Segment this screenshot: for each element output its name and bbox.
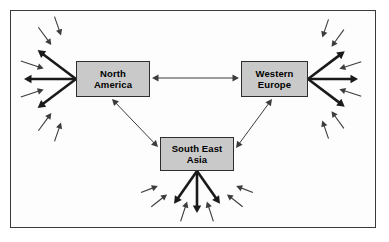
fan-western-europe [308, 19, 361, 138]
fan-south-east-asia-thin-arrow-5 [141, 185, 158, 192]
fan-north-america-thin-arrow-5 [55, 122, 63, 141]
fan-western-europe-thin-arrow-2 [332, 111, 344, 128]
node-south-east-asia[interactable]: South East Asia [160, 137, 234, 171]
fan-western-europe-thin-arrow-0 [339, 88, 361, 96]
connector-na-we[interactable] [152, 75, 239, 82]
fan-north-america-thin-arrow-4 [55, 17, 63, 36]
fan-north-america-thick-arrow-2 [38, 79, 76, 108]
fan-south-east-asia-thin-arrow-2 [227, 194, 243, 206]
fan-western-europe-thick-arrow-2 [308, 51, 345, 79]
fan-north-america-thick-arrow-0 [24, 75, 76, 83]
fan-south-east-asia-thick-arrow-2 [174, 171, 197, 204]
node-north-america-label: North America [92, 68, 134, 91]
fan-north-america-thin-arrow-3 [38, 113, 51, 131]
connector-we-sea[interactable] [236, 99, 272, 148]
fan-western-europe-thin-arrow-5 [321, 19, 328, 37]
fan-western-europe-thick-arrow-1 [308, 79, 345, 107]
diagram-canvas [0, 0, 389, 242]
connector-na-sea[interactable] [112, 99, 158, 147]
fan-south-east-asia-thin-arrow-4 [236, 185, 253, 192]
fan-north-america-thin-arrow-1 [21, 88, 44, 97]
fan-western-europe-thin-arrow-4 [321, 121, 328, 139]
fan-south-east-asia-thick-arrow-1 [197, 171, 220, 204]
node-north-america[interactable]: North America [76, 61, 150, 97]
fan-western-europe-thin-arrow-3 [332, 30, 344, 47]
fan-north-america [21, 17, 76, 142]
fan-western-europe-thin-arrow-1 [339, 62, 361, 70]
node-western-europe-label: Western Europe [253, 68, 295, 91]
fan-south-east-asia-thin-arrow-0 [206, 201, 214, 221]
fan-south-east-asia-thin-arrow-3 [151, 194, 167, 206]
fan-north-america-thin-arrow-0 [21, 61, 44, 70]
fan-north-america-thin-arrow-2 [38, 27, 51, 45]
fan-south-east-asia [141, 171, 253, 221]
fan-western-europe-thick-arrow-0 [308, 75, 358, 83]
node-western-europe[interactable]: Western Europe [241, 61, 308, 97]
arrow-fans-layer [21, 17, 361, 222]
diagram-figure: North America Western Europe South East … [0, 0, 389, 242]
fan-north-america-thick-arrow-1 [38, 50, 76, 79]
fan-south-east-asia-thin-arrow-1 [181, 201, 189, 221]
node-south-east-asia-label: South East Asia [170, 143, 225, 166]
